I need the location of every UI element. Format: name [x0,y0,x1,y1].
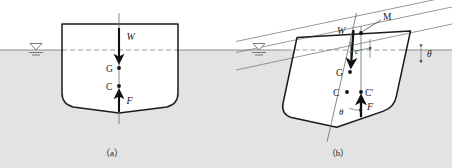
panel-b: M W e G C C' F θ θ [226,0,452,168]
metacenter-label-b: M [383,12,392,22]
metacenter-point-b [359,31,363,35]
panel-a: W G C F [0,13,226,168]
center-of-buoyancy-label-a: C [106,82,112,92]
center-of-gravity-point-a [117,66,121,70]
center-of-buoyancy-point-a [117,84,121,88]
weight-label-a: W [127,31,137,42]
metacenter-leader-line-b [363,20,382,32]
center-of-gravity-label-b: G [336,68,343,78]
ship-stability-figure: W G C F [0,0,452,168]
center-of-gravity-label-a: G [106,64,113,74]
buoyancy-label-b: F [366,101,374,112]
heel-angle-label-keel-b: θ [339,107,344,117]
caption-b: （b） [308,146,368,159]
center-of-buoyancy-shifted-point-b [359,90,363,94]
figure-canvas: W G C F [0,0,452,168]
center-of-buoyancy-point-b [345,90,349,94]
water-level-triangle-a [30,44,42,51]
center-of-gravity-point-b [348,70,352,74]
caption-a: （a） [82,146,142,159]
righting-arm-label-b: e [355,47,359,56]
center-of-buoyancy-label-b: C [333,88,339,98]
center-of-buoyancy-shifted-label-b: C' [365,88,373,98]
heel-angle-label-waterline-b: θ [427,49,432,59]
buoyancy-label-a: F [126,95,134,106]
